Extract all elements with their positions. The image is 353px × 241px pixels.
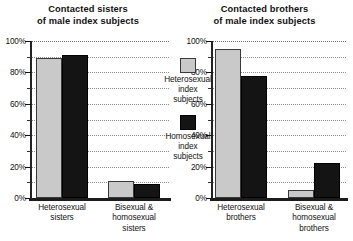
x-axis-category-line: homosexual: [100, 213, 168, 223]
chart-title-line1: Contacted brothers: [176, 4, 353, 16]
x-axis-sisters: [29, 198, 171, 201]
chart-title-brothers: Contacted brothers of male index subject…: [176, 4, 353, 27]
bar-sisters-cat1-series0: [108, 181, 134, 198]
plot-area-brothers: 0%20%40%60%80%100%: [212, 41, 346, 198]
x-axis-category-label: Bisexual &homosexualsisters: [100, 203, 168, 234]
x-axis-category-line: brothers: [207, 213, 275, 223]
legend: Heterosexual index subjects Homosexual i…: [152, 58, 224, 171]
x-axis-category-line: Bisexual &: [280, 203, 348, 213]
x-axis-category-line: sisters: [28, 213, 96, 223]
plot-area-sisters: 0%20%40%60%80%100%: [31, 41, 169, 198]
legend-entry-heterosexual: Heterosexual index subjects: [152, 58, 224, 106]
y-axis-tick-label: 100%: [5, 37, 26, 46]
x-axis-brothers: [210, 198, 348, 201]
chart-panel-sisters: Contacted sisters of male index subjects…: [0, 0, 176, 241]
x-axis-category-line: sisters: [100, 224, 168, 234]
x-axis-category-line: Bisexual &: [100, 203, 168, 213]
y-axis-tick-label: 60%: [10, 99, 26, 108]
legend-swatch-icon-heterosexual: [180, 58, 196, 73]
x-axis-category-label: Heterosexualsisters: [28, 203, 96, 224]
legend-label-line2: index: [152, 85, 224, 95]
x-axis-category-line: homosexual: [280, 213, 348, 223]
legend-label-line1: Heterosexual: [152, 75, 224, 85]
bar-brothers-cat1-series0: [288, 190, 314, 198]
y-axis-tick-label: 20%: [10, 162, 26, 171]
legend-label-line1: Homosexual: [152, 132, 224, 142]
chart-title-sisters: Contacted sisters of male index subjects: [0, 4, 176, 27]
chart-title-line2: of male index subjects: [0, 16, 176, 28]
y-axis-tick-label: 100%: [186, 37, 207, 46]
bar-brothers-cat1-series1: [314, 163, 340, 198]
bars-sisters: [31, 41, 169, 198]
x-axis-category-line: Heterosexual: [28, 203, 96, 213]
figure-root: Contacted sisters of male index subjects…: [0, 0, 353, 241]
x-axis-category-label: Bisexual &homosexualbrothers: [280, 203, 348, 234]
x-axis-category-line: Heterosexual: [207, 203, 275, 213]
legend-swatch-icon-homosexual: [180, 115, 196, 130]
y-axis-tick-label: 40%: [10, 131, 26, 140]
y-axis-tick-label: 0%: [14, 194, 26, 203]
bar-sisters-cat0-series1: [62, 55, 88, 198]
x-axis-category-line: brothers: [280, 224, 348, 234]
legend-label-heterosexual: Heterosexual index subjects: [152, 75, 224, 106]
bar-brothers-cat0-series1: [241, 76, 267, 198]
x-axis-category-label: Heterosexualbrothers: [207, 203, 275, 224]
chart-title-line1: Contacted sisters: [0, 4, 176, 16]
bar-sisters-cat0-series0: [36, 58, 62, 198]
legend-label-line2: index: [152, 142, 224, 152]
legend-label-line3: subjects: [152, 152, 224, 162]
bar-sisters-cat1-series1: [134, 184, 160, 198]
legend-label-homosexual: Homosexual index subjects: [152, 132, 224, 163]
y-axis-tick-label: 0%: [195, 194, 207, 203]
bars-brothers: [212, 41, 346, 198]
legend-entry-homosexual: Homosexual index subjects: [152, 115, 224, 163]
y-axis-tick-label: 80%: [10, 68, 26, 77]
legend-label-line3: subjects: [152, 95, 224, 105]
chart-title-line2: of male index subjects: [176, 16, 353, 28]
